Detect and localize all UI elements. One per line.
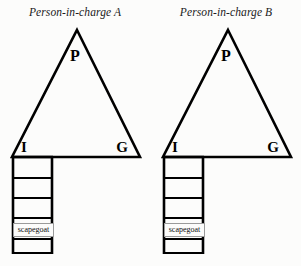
diagram-canvas: Person-in-charge A P I G scapegoat Perso… bbox=[0, 0, 301, 266]
vertex-label-g-b: G bbox=[263, 140, 283, 155]
scapegoat-label-a: scapegoat bbox=[13, 223, 54, 237]
vertex-label-g-a: G bbox=[112, 140, 132, 155]
vertex-label-p-a: P bbox=[0, 48, 150, 64]
vertex-label-i-a: I bbox=[14, 140, 34, 155]
diagram-panel-b: Person-in-charge B P I G scapegoat bbox=[151, 0, 301, 266]
diagram-panel-a: Person-in-charge A P I G scapegoat bbox=[0, 0, 150, 266]
vertex-label-i-b: I bbox=[165, 140, 185, 155]
scapegoat-label-b: scapegoat bbox=[164, 223, 205, 237]
vertex-label-p-b: P bbox=[151, 48, 301, 64]
